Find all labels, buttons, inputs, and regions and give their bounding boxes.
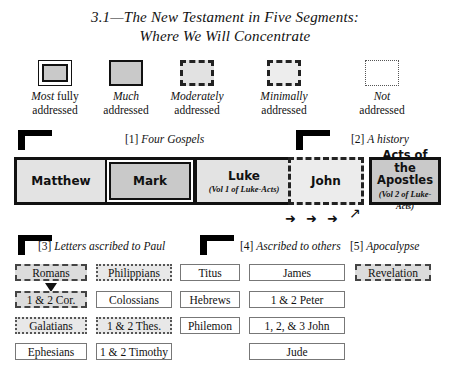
segment-number: [1] [125,133,138,145]
grid-cell-titus[interactable]: Titus [180,264,240,281]
grid-cell-label: 1 & 2 Peter [271,294,324,306]
grid-cell-jude[interactable]: Jude [249,343,345,360]
legend-item-minimally: Minimally addressed [239,60,329,117]
grid-cell-galatians[interactable]: Galatians [15,317,87,334]
legend-label-emphasis: Not [374,90,391,102]
grid-cell-label: Ephesians [28,346,75,358]
grid-cell-ephesians[interactable]: Ephesians [15,343,87,360]
figure-root: 3.1—The New Testament in Five Segments: … [0,0,450,388]
grid-cell-label: Titus [198,267,221,279]
grid-cell-label: Hebrews [190,294,231,306]
legend-label-line2: addressed [359,104,404,116]
book-name-mark: Mark [133,174,167,188]
legend-swatch-minimally-icon [267,60,301,86]
grid-cell-1-2-peter[interactable]: 1 & 2 Peter [249,291,345,308]
grid-cell-label: 1 & 2 Timothy [100,346,168,358]
legend-label-line2: addressed [103,104,148,116]
legend-label-line2: addressed [32,104,77,116]
segment-name: Ascribed to others [256,240,340,252]
grid-cell-label: Colossians [109,294,159,306]
grid-cell-label: Philemon [188,320,232,332]
legend-label-line2: addressed [174,104,219,116]
grid-cell-label: Philippians [108,267,160,279]
book-box-john[interactable]: John [288,157,364,205]
flow-arrow-right-icon: ➜ [327,212,338,225]
segment-number: [3] [38,240,51,252]
segment-number: [4] [240,240,253,252]
segment-name: A history [367,133,409,145]
legend-caption-moderately: Moderately addressed [152,90,242,117]
legend-swatch-not-icon [365,60,399,86]
segment-label-paul: [3] Letters ascribed to Paul [38,240,165,252]
book-name-acts-line-2: Apostles [377,174,433,187]
book-box-luke[interactable]: Luke (Vol 1 of Luke-Acts) [195,160,291,202]
segment-label-others: [4] Ascribed to others [240,240,341,252]
book-sub-acts: (Vol 2 of Luke-Acts) [372,188,438,213]
figure-title: 3.1—The New Testament in Five Segments: … [0,8,450,46]
segment-name: Four Gospels [141,133,204,145]
book-name-matthew: Matthew [31,174,90,188]
legend-label-emphasis: Moderately [170,90,223,102]
segment-name: Letters ascribed to Paul [54,240,165,252]
book-name-john: John [311,174,341,188]
bracket-others-icon [200,235,234,255]
grid-cell-label: Jude [286,346,307,358]
flow-arrow-right-icon: ➜ [306,212,317,225]
book-name-luke: Luke [228,169,260,183]
legend-caption-not: Not addressed [337,90,427,117]
legend-swatch-moderately-icon [180,60,214,86]
figure-title-line-1: 3.1—The New Testament in Five Segments: [0,8,450,27]
four-gospels-group: Matthew Mark Luke (Vol 1 of Luke-Acts) [14,157,296,205]
legend-item-moderately: Moderately addressed [152,60,242,117]
legend-item-not: Not addressed [337,60,427,117]
segment-number: [5] [350,240,363,252]
book-box-matthew[interactable]: Matthew [17,160,105,202]
bracket-history-icon [296,130,330,150]
flow-arrow-right-icon: ➜ [285,212,296,225]
book-name-acts-line-1: Acts of the [372,149,438,174]
segment-number: [2] [351,133,364,145]
grid-cell-revelation[interactable]: Revelation [355,264,431,281]
grid-cell-label: 1 & 2 Thes. [107,320,161,332]
grid-cell-label: James [283,267,311,279]
grid-cell-label: Galatians [29,320,72,332]
grid-cell-philippians[interactable]: Philippians [96,264,172,281]
segment-label-apocalypse: [5] Apocalypse [350,240,419,252]
segment-label-gospels: [1] Four Gospels [125,133,204,145]
legend-swatch-much-icon [109,60,143,86]
book-box-acts[interactable]: Acts of the Apostles (Vol 2 of Luke-Acts… [369,157,441,205]
grid-cell-romans[interactable]: Romans [15,264,87,281]
grid-cell-label: Romans [32,267,70,279]
book-box-mark[interactable]: Mark [105,160,195,202]
legend-label-emphasis: Much [113,90,139,102]
legend-label-emphasis: Most [31,90,54,102]
flow-arrow-up-right-icon: ↗ [349,206,361,220]
legend-caption-minimally: Minimally addressed [239,90,329,117]
figure-title-line-2: Where We Will Concentrate [0,27,450,46]
grid-cell-label: 1 & 2 Cor. [27,294,76,306]
grid-cell-label: 1, 2, & 3 John [264,320,329,332]
grid-cell-colossians[interactable]: Colossians [96,291,172,308]
book-sub-luke: (Vol 1 of Luke-Acts) [209,184,280,194]
legend-label-emphasis: Minimally [260,90,307,102]
legend-swatch-most-fully-icon [38,60,72,86]
grid-cell-label: Revelation [368,267,418,279]
bracket-gospels-icon [18,130,52,150]
grid-cell-1-2-thes[interactable]: 1 & 2 Thes. [96,317,172,334]
grid-cell-1-2-3-john[interactable]: 1, 2, & 3 John [249,317,345,334]
grid-cell-hebrews[interactable]: Hebrews [180,291,240,308]
segment-name: Apocalypse [366,240,419,252]
legend-label-rest: fully [54,90,79,102]
grid-cell-1-2-cor[interactable]: 1 & 2 Cor. [15,291,87,308]
segment-label-history: [2] A history [351,133,409,145]
grid-cell-philemon[interactable]: Philemon [180,317,240,334]
legend-label-line2: addressed [261,104,306,116]
grid-cell-james[interactable]: James [249,264,345,281]
grid-cell-1-2-timothy[interactable]: 1 & 2 Timothy [96,343,172,360]
